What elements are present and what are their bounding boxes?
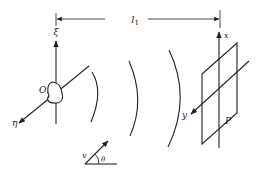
velocity-label: v (82, 151, 87, 160)
distance-dimension: l1 (56, 10, 220, 28)
wavefronts (91, 50, 180, 147)
angle-arc (95, 154, 99, 164)
wavefront-1 (91, 72, 98, 122)
angle-label: θ (101, 156, 106, 164)
observation-plane: x y P (181, 31, 249, 148)
plane-label: P (224, 116, 232, 126)
xi-axis-label: ξ (54, 27, 60, 37)
x-axis-label: x (224, 31, 229, 40)
velocity-indicator: v θ (82, 141, 117, 164)
origin-label: O (39, 85, 47, 95)
source-object (48, 82, 63, 103)
wavefront-3 (168, 50, 180, 147)
eta-axis-label: η (12, 118, 18, 128)
wavefront-2 (129, 61, 138, 136)
source-system: ξ η O (12, 27, 89, 128)
y-axis (191, 61, 249, 114)
wave-diagram: l1 ξ η O x y P v θ (0, 0, 261, 176)
distance-label: l1 (131, 14, 139, 27)
y-axis-label: y (181, 110, 188, 120)
